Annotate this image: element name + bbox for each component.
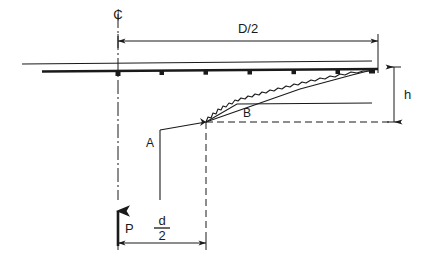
thick-plate-stroke <box>42 69 378 72</box>
point-labels: A B <box>146 106 251 150</box>
diagram-canvas: D/2 ₵ <box>0 0 423 265</box>
node-marker <box>204 70 209 75</box>
dimension-h: h <box>387 67 411 122</box>
node-marker <box>160 70 165 75</box>
deflection-straight-stroke <box>206 70 372 122</box>
deflection-jagged-curve <box>206 70 374 122</box>
engineering-diagram: D/2 ₵ <box>0 0 423 265</box>
segment-a-to-junction <box>160 122 206 130</box>
deflection-jagged-stroke <box>206 70 374 122</box>
segment-a-junction-stroke <box>160 122 206 130</box>
node-marker <box>248 70 253 75</box>
node-marker <box>116 70 121 76</box>
junction-arrow-glyph <box>200 118 206 126</box>
lower-thick-plate-line <box>42 69 378 72</box>
dimension-D2-label: D/2 <box>238 21 258 36</box>
centerline-symbol-glyph: ₵ <box>113 7 122 22</box>
upper-thin-surface-line <box>22 61 372 64</box>
node-marker <box>336 69 341 74</box>
point-a-label: A <box>146 136 154 150</box>
load-arrow: P <box>118 211 134 246</box>
point-b-label: B <box>243 106 251 120</box>
load-label: P <box>125 221 134 236</box>
dimension-h-label: h <box>404 87 411 102</box>
thin-surface-stroke <box>22 61 372 64</box>
deflection-straight-line <box>206 70 372 122</box>
dimension-d2-denominator: 2 <box>158 228 165 243</box>
centerline-symbol: ₵ <box>113 7 122 22</box>
junction-point-marker <box>200 118 206 126</box>
node-marker <box>292 69 297 74</box>
dimension-D-over-2: D/2 <box>118 21 378 73</box>
dimension-d2-numerator: d <box>158 213 165 228</box>
b-shelf-stroke <box>206 103 372 122</box>
b-shelf-line <box>206 103 372 122</box>
